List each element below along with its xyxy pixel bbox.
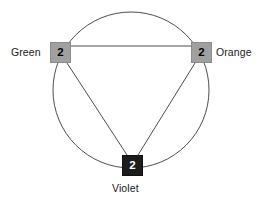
node-green-value: 2 — [57, 47, 63, 59]
node-violet-value: 2 — [129, 160, 135, 172]
edge-orange-violet — [138, 63, 195, 155]
node-violet-box[interactable]: 2 — [122, 155, 143, 176]
node-orange-label: Orange — [216, 47, 252, 58]
node-violet-label: Violet — [112, 183, 139, 194]
node-orange-box[interactable]: 2 — [191, 42, 212, 63]
edge-green-violet — [67, 63, 127, 155]
node-green-box[interactable]: 2 — [50, 42, 71, 63]
node-green-label: Green — [11, 47, 41, 58]
node-orange-value: 2 — [198, 47, 204, 59]
outer-circle — [53, 12, 209, 168]
diagram-canvas: 2 2 2 Green Orange Violet — [0, 0, 270, 206]
